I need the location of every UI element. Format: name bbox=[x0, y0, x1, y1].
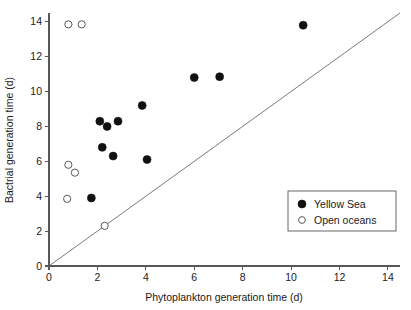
data-point-yellow-sea bbox=[190, 74, 198, 82]
data-point-open-oceans bbox=[64, 195, 71, 202]
data-point-yellow-sea bbox=[96, 117, 104, 125]
data-point-open-oceans bbox=[71, 169, 78, 176]
data-point-yellow-sea bbox=[138, 101, 146, 109]
x-tick-label: 4 bbox=[143, 271, 149, 283]
data-point-yellow-sea bbox=[299, 21, 307, 29]
y-tick-label: 10 bbox=[30, 85, 42, 97]
legend-marker-yellow-sea bbox=[298, 200, 306, 208]
data-point-yellow-sea bbox=[114, 117, 122, 125]
data-point-yellow-sea bbox=[143, 156, 151, 164]
y-tick-label: 2 bbox=[36, 225, 42, 237]
y-tick-label: 0 bbox=[36, 260, 42, 272]
data-point-yellow-sea bbox=[216, 73, 224, 81]
x-tick-label: 2 bbox=[94, 271, 100, 283]
data-point-yellow-sea bbox=[109, 152, 117, 160]
x-tick-label: 12 bbox=[334, 271, 346, 283]
legend-marker-open-oceans bbox=[299, 217, 306, 224]
y-axis-label: Bactrial generation time (d) bbox=[3, 77, 15, 203]
x-tick-label: 10 bbox=[285, 271, 297, 283]
y-axis-ticks: 02468101214 bbox=[30, 15, 49, 271]
y-tick-label: 4 bbox=[36, 190, 42, 202]
y-tick-label: 8 bbox=[36, 120, 42, 132]
data-point-open-oceans bbox=[78, 21, 85, 28]
data-point-yellow-sea bbox=[87, 194, 95, 202]
x-tick-label: 8 bbox=[240, 271, 246, 283]
y-tick-label: 6 bbox=[36, 155, 42, 167]
x-tick-label: 14 bbox=[382, 271, 394, 283]
legend-label: Open oceans bbox=[314, 214, 376, 226]
x-axis-label: Phytoplankton generation time (d) bbox=[145, 291, 303, 303]
scatter-plot-figure: 02468101214 02468101214 Phytoplankton ge… bbox=[0, 0, 411, 310]
data-point-yellow-sea bbox=[98, 143, 106, 151]
y-tick-label: 12 bbox=[30, 50, 42, 62]
chart-canvas: 02468101214 02468101214 Phytoplankton ge… bbox=[0, 0, 411, 310]
chart-legend: Yellow SeaOpen oceans bbox=[288, 191, 396, 231]
data-point-open-oceans bbox=[101, 222, 108, 229]
data-points bbox=[64, 21, 308, 230]
data-point-open-oceans bbox=[65, 21, 72, 28]
x-axis-ticks: 02468101214 bbox=[46, 266, 394, 283]
y-tick-label: 14 bbox=[30, 15, 42, 27]
data-point-yellow-sea bbox=[103, 122, 111, 130]
x-tick-label: 0 bbox=[46, 271, 52, 283]
data-point-open-oceans bbox=[65, 161, 72, 168]
x-tick-label: 6 bbox=[191, 271, 197, 283]
legend-label: Yellow Sea bbox=[314, 198, 366, 210]
